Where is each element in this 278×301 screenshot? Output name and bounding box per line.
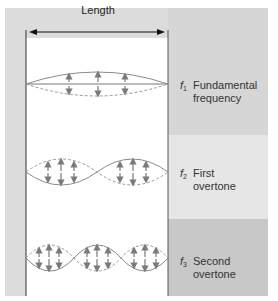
frequency-symbol: f2: [180, 167, 187, 179]
mode-label-f3: f3 Second overtone: [180, 255, 187, 271]
mode-label-f2: f2 First overtone: [180, 167, 187, 183]
mode-name-line1: Fundamental: [193, 79, 257, 91]
mode-name-line2: overtone: [193, 180, 236, 192]
band-fundamental: [168, 8, 268, 135]
mode-name-line2: frequency: [193, 92, 241, 104]
tube-interior: [26, 38, 168, 296]
mode-name-line1: First: [193, 167, 214, 179]
mode-label-f1: f1 Fundamental frequency: [180, 79, 187, 95]
frequency-symbol: f3: [180, 255, 187, 267]
mode-name-line2: overtone: [193, 268, 236, 280]
mode-name-line1: Second: [193, 255, 230, 267]
frequency-symbol: f1: [180, 79, 187, 91]
left-panel: [5, 8, 26, 296]
diagram-canvas: [0, 0, 278, 301]
length-label: Length: [70, 4, 126, 16]
